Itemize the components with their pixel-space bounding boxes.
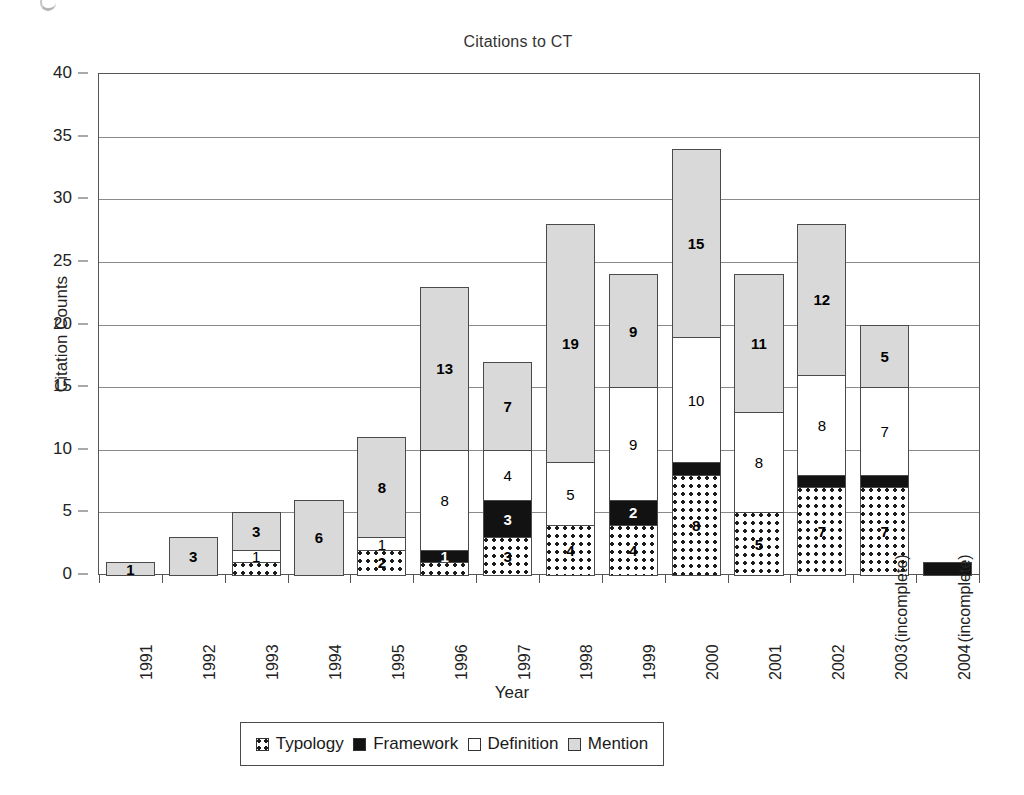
bar-segment-typology-1995[interactable]: 2	[357, 550, 406, 576]
legend-swatch-framework-icon	[353, 738, 366, 751]
x-axis-label-2004: 2004(incomplete)	[956, 585, 974, 680]
bar-segment-definition-1999[interactable]: 9	[609, 387, 658, 501]
bar-value-label: 7	[881, 524, 889, 539]
bar-segment-framework-1997[interactable]: 3	[483, 500, 532, 539]
bar-group-1995[interactable]: 218	[357, 437, 406, 575]
bar-group-1997[interactable]: 3347	[483, 362, 532, 575]
bar-value-label: 11	[751, 336, 767, 351]
bar-value-label: 15	[688, 236, 705, 251]
bar-segment-typology-2002[interactable]: 7	[797, 487, 846, 576]
bar-group-2001[interactable]: 5811	[734, 274, 783, 575]
bar-group-1999[interactable]: 4299	[609, 274, 658, 575]
bar-value-label: 5	[755, 537, 763, 552]
bar-segment-definition-2003[interactable]: 7	[860, 387, 909, 476]
legend-swatch-typology-icon	[256, 738, 269, 751]
bar-segment-framework-1996[interactable]: 1	[420, 550, 469, 564]
x-label-year: 1993	[264, 644, 282, 680]
bar-segment-mention-1994[interactable]: 6	[294, 500, 343, 576]
bar-segment-definition-1996[interactable]: 8	[420, 450, 469, 551]
bar-segment-typology-1998[interactable]: 4	[546, 525, 595, 576]
bar-segment-definition-1995[interactable]: 1	[357, 537, 406, 551]
bar-segment-typology-1999[interactable]: 4	[609, 525, 658, 576]
bar-value-label: 3	[503, 512, 511, 527]
bar-segment-typology-1996[interactable]	[420, 562, 469, 576]
y-tick-label-5: 5	[63, 501, 72, 521]
bar-value-label: 4	[566, 543, 574, 558]
x-axis-label-1998: 1998	[578, 585, 596, 680]
bar-segment-framework-2002[interactable]	[797, 475, 846, 489]
bar-value-label: 7	[818, 524, 826, 539]
bar-group-2003[interactable]: 775	[860, 325, 909, 575]
bar-segment-definition-1997[interactable]: 4	[483, 450, 532, 501]
x-tick-1997	[539, 575, 540, 583]
x-axis-labels: 1991199219931994199519961997199819992000…	[99, 585, 979, 680]
bar-group-1992[interactable]: 3	[169, 537, 218, 575]
legend-item-definition[interactable]: Definition	[468, 734, 559, 754]
bar-segment-mention-1997[interactable]: 7	[483, 362, 532, 451]
bar-value-label: 3	[503, 549, 511, 564]
y-tick-mark-25	[78, 260, 88, 261]
y-tick-mark-40	[78, 73, 88, 74]
bar-segment-typology-1993[interactable]	[232, 562, 281, 576]
bar-segment-definition-1998[interactable]: 5	[546, 462, 595, 526]
bar-group-1998[interactable]: 4519	[546, 224, 595, 575]
bar-segment-framework-2003[interactable]	[860, 475, 909, 489]
bar-segment-mention-1998[interactable]: 19	[546, 224, 595, 463]
x-tick-1992	[225, 575, 226, 583]
bar-segment-mention-2002[interactable]: 12	[797, 224, 846, 375]
x-axis-label-1996: 1996	[453, 585, 471, 680]
bar-segment-typology-2000[interactable]: 8	[672, 475, 721, 576]
bar-value-label: 5	[566, 487, 574, 502]
bar-value-label: 9	[629, 324, 637, 339]
legend-item-framework[interactable]: Framework	[353, 734, 458, 754]
bar-segment-mention-2000[interactable]: 15	[672, 149, 721, 338]
bar-segment-mention-1999[interactable]: 9	[609, 274, 658, 388]
x-label-year: 1991	[138, 644, 156, 680]
x-tick-1999	[665, 575, 666, 583]
bar-segment-mention-2003[interactable]: 5	[860, 325, 909, 389]
y-tick-mark-30	[78, 198, 88, 199]
bar-value-label: 3	[252, 524, 260, 539]
y-tick-mark-20	[78, 323, 88, 324]
bar-group-2000[interactable]: 81015	[672, 149, 721, 575]
x-axis-label-1999: 1999	[641, 585, 659, 680]
x-tick-2003	[916, 575, 917, 583]
legend-item-mention[interactable]: Mention	[568, 734, 648, 754]
bar-value-label: 1	[252, 550, 260, 564]
bar-value-label: 8	[378, 480, 386, 495]
legend-item-typology[interactable]: Typology	[256, 734, 344, 754]
x-label-year: 2003	[893, 644, 911, 680]
bar-segment-mention-1991[interactable]: 1	[106, 562, 155, 576]
chart-title-text: Citations to CT	[464, 33, 573, 50]
bar-segment-definition-2002[interactable]: 8	[797, 375, 846, 476]
y-tick-mark-15	[78, 386, 88, 387]
bar-segment-typology-1997[interactable]: 3	[483, 537, 532, 576]
x-label-year: 2004	[956, 644, 974, 680]
bar-value-label: 1	[378, 537, 386, 551]
bar-segment-framework-2000[interactable]	[672, 462, 721, 476]
bar-group-1991[interactable]: 1	[106, 562, 155, 575]
x-axis-title: Year	[0, 683, 1024, 703]
bar-segment-definition-2000[interactable]: 10	[672, 337, 721, 463]
bar-segment-definition-2001[interactable]: 8	[734, 412, 783, 513]
bar-group-1993[interactable]: 13	[232, 512, 281, 575]
bar-segment-typology-2001[interactable]: 5	[734, 512, 783, 576]
bar-series-container: 1313621818133347451942998101558117812775	[99, 74, 979, 575]
bar-value-label: 1	[441, 550, 449, 564]
bar-segment-framework-1999[interactable]: 2	[609, 500, 658, 526]
bar-segment-definition-1993[interactable]: 1	[232, 550, 281, 564]
x-label-note: (incomplete)	[956, 554, 974, 642]
bar-group-1996[interactable]: 1813	[420, 287, 469, 575]
x-tick-1994	[350, 575, 351, 583]
bar-segment-mention-1995[interactable]: 8	[357, 437, 406, 538]
bar-group-1994[interactable]: 6	[294, 500, 343, 575]
bar-value-label: 9	[629, 437, 637, 452]
bar-segment-mention-1993[interactable]: 3	[232, 512, 281, 551]
bar-segment-mention-2001[interactable]: 11	[734, 274, 783, 413]
bar-value-label: 12	[813, 292, 830, 307]
bar-value-label: 19	[562, 336, 579, 351]
y-axis: 0510152025303540	[0, 0, 98, 648]
bar-segment-mention-1992[interactable]: 3	[169, 537, 218, 576]
bar-segment-mention-1996[interactable]: 13	[420, 287, 469, 451]
bar-group-2002[interactable]: 7812	[797, 224, 846, 575]
